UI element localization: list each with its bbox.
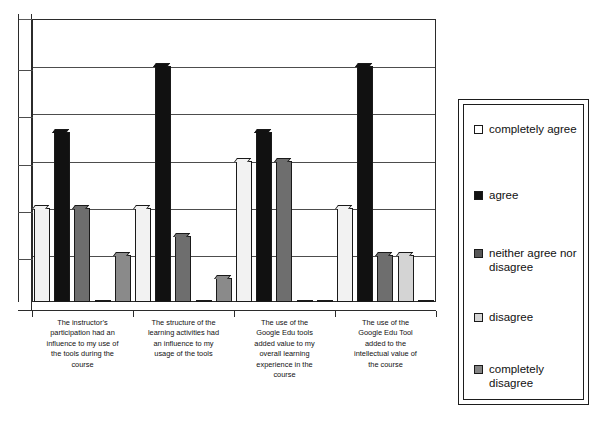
category-label-line: added value to my	[234, 339, 335, 349]
bar-top-cap	[234, 158, 251, 162]
bar-neither-agree-nor-disagree	[74, 208, 90, 302]
category-label-line: usage of the tools	[133, 349, 234, 359]
bar-top-cap	[173, 233, 190, 237]
category-label-line: intellectual value of	[335, 349, 436, 359]
category-label-line: Google Edu Tool	[335, 328, 436, 338]
bar-completely-agree	[34, 208, 50, 302]
category-tick	[436, 311, 437, 317]
legend-label: completely disagree	[489, 363, 583, 390]
legend-item-completely-agree[interactable]: completely agree	[474, 123, 577, 137]
category-tick-marks	[18, 311, 436, 317]
category-label-line: The use of the	[335, 318, 436, 328]
bar-completely-agree	[135, 208, 151, 302]
legend-item-neither-agree-nor-disagree[interactable]: neither agree nor disagree	[474, 247, 583, 274]
legend-label: agree	[489, 189, 518, 203]
category-tick	[335, 311, 336, 317]
category-label-line: course	[32, 360, 133, 370]
bar-completely-disagree	[115, 255, 131, 302]
category-label-line: The instructor’s	[32, 318, 133, 328]
bar-top-cap	[274, 158, 291, 162]
plot-area	[18, 14, 436, 314]
bar-completely-agree	[337, 208, 353, 302]
bar-top-cap	[355, 63, 372, 67]
bar-disagree	[398, 255, 414, 302]
bar-chart: The instructor’sparticipation had aninfl…	[0, 0, 603, 434]
bar-top-cap	[133, 205, 150, 209]
legend-label: neither agree nor disagree	[489, 247, 583, 274]
legend-item-disagree[interactable]: disagree	[474, 311, 533, 325]
bar-group	[133, 19, 234, 302]
category-label: The use of theGoogle Edu Tooladded to th…	[335, 318, 436, 370]
bar-top-cap	[396, 252, 413, 256]
bar-top-cap	[32, 205, 49, 209]
bar-agree	[155, 66, 171, 302]
category-tick	[234, 311, 235, 317]
category-label-line: learning activities had	[133, 328, 234, 338]
category-label-line: The use of the	[234, 318, 335, 328]
bar-agree	[256, 132, 272, 302]
plot-floor	[18, 302, 436, 311]
legend-swatch-icon	[474, 365, 483, 374]
category-label-line: an influence to my	[133, 339, 234, 349]
bar-top-cap	[254, 129, 271, 133]
category-axis-labels: The instructor’sparticipation had aninfl…	[18, 318, 436, 408]
axis-tick	[18, 165, 33, 166]
category-label-line: the tools during the	[32, 349, 133, 359]
bar-top-cap	[375, 252, 392, 256]
category-label: The use of theGoogle Edu toolsadded valu…	[234, 318, 335, 380]
bar-neither-agree-nor-disagree	[175, 236, 191, 302]
legend-swatch-icon	[474, 249, 483, 258]
bar-completely-agree	[236, 161, 252, 303]
bar-group	[32, 19, 133, 302]
legend-inner-frame: completely agreeagreeneither agree nor d…	[463, 104, 584, 400]
category-label-line: influence to my use of	[32, 339, 133, 349]
category-label: The structure of thelearning activities …	[133, 318, 234, 360]
category-label-line: The structure of the	[133, 318, 234, 328]
legend-item-agree[interactable]: agree	[474, 189, 518, 203]
category-label-line: participation had an	[32, 328, 133, 338]
category-label: The instructor’sparticipation had aninfl…	[32, 318, 133, 370]
bar-agree	[54, 132, 70, 302]
category-label-line: the course	[335, 360, 436, 370]
axis-tick	[18, 259, 33, 260]
bar-neither-agree-nor-disagree	[276, 161, 292, 303]
axis-tick	[18, 70, 33, 71]
legend-swatch-icon	[474, 313, 483, 322]
bar-group	[234, 19, 335, 302]
bar-top-cap	[214, 275, 231, 279]
category-label-line: overall learning	[234, 349, 335, 359]
legend-swatch-icon	[474, 191, 483, 200]
bar-top-cap	[72, 205, 89, 209]
legend-swatch-icon	[474, 125, 483, 134]
bar-group	[335, 19, 436, 302]
category-tick	[32, 311, 33, 317]
legend: completely agreeagreeneither agree nor d…	[458, 99, 589, 405]
category-label-line: course	[234, 370, 335, 380]
bar-top-cap	[153, 63, 170, 67]
axis-tick	[18, 212, 33, 213]
bar-series-container	[32, 19, 436, 302]
bar-top-cap	[335, 205, 352, 209]
legend-item-completely-disagree[interactable]: completely disagree	[474, 363, 583, 390]
category-label-line: Google Edu tools	[234, 328, 335, 338]
legend-label: completely agree	[489, 123, 577, 137]
bar-completely-disagree	[216, 278, 232, 302]
category-tick	[133, 311, 134, 317]
category-label-line: experience in the	[234, 360, 335, 370]
legend-label: disagree	[489, 311, 533, 325]
category-label-line: added to the	[335, 339, 436, 349]
axis-tick	[18, 117, 33, 118]
plot-floor-left	[18, 302, 32, 311]
bar-top-cap	[52, 129, 69, 133]
bar-agree	[357, 66, 373, 302]
bar-neither-agree-nor-disagree	[377, 255, 393, 302]
bar-top-cap	[113, 252, 130, 256]
